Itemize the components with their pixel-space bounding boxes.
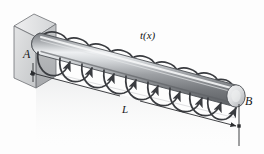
- label-free-end-b: B: [245, 95, 252, 107]
- label-distributed-torque: t(x): [140, 30, 155, 41]
- label-support-a: A: [23, 48, 30, 60]
- label-length-l: L: [122, 104, 128, 115]
- figure-canvas: A B L t(x): [0, 0, 264, 154]
- shaft-torque-diagram: [0, 0, 264, 154]
